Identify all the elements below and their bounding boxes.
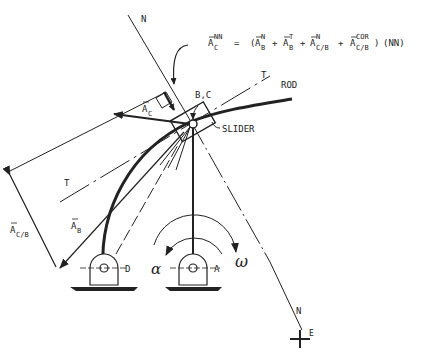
equation-leader: [174, 45, 188, 84]
label-pivot-d: D: [125, 264, 130, 274]
svg-text:C: C: [214, 44, 218, 52]
svg-text:B: B: [261, 44, 265, 52]
omega-arc: [154, 215, 236, 252]
vector-acb-line: [10, 175, 56, 267]
label-omega: ω: [235, 252, 248, 271]
label-slider: SLIDER: [222, 124, 255, 134]
svg-text:+: +: [338, 38, 344, 48]
label-acb: A C/B: [10, 223, 29, 239]
svg-text:N: N: [261, 33, 265, 41]
svg-text:COR: COR: [356, 33, 369, 41]
svg-text:+: +: [272, 38, 278, 48]
svg-text:N: N: [316, 33, 320, 41]
label-e: E: [309, 329, 314, 338]
label-ab: A B: [71, 219, 81, 235]
vector-acnn-arrow: [164, 92, 174, 110]
label-alpha: α: [151, 260, 161, 278]
svg-text:B: B: [77, 227, 81, 235]
label-ac: A C: [142, 102, 152, 118]
svg-text:): ): [374, 38, 379, 48]
svg-text:B: B: [289, 44, 293, 52]
label-n-bottom: N: [296, 306, 301, 316]
svg-text:=: =: [234, 38, 240, 48]
svg-text:C/B: C/B: [356, 44, 369, 52]
svg-text:C: C: [148, 110, 152, 118]
label-pivot-a: A: [214, 264, 220, 274]
kinematics-diagram: N N E T T ROD SLIDER B,C D A α ω A C A B…: [0, 0, 426, 356]
label-t-lower: T: [64, 178, 70, 188]
svg-text:C/B: C/B: [16, 231, 29, 239]
label-bc: B,C: [195, 90, 211, 100]
link-db-line: [108, 145, 178, 268]
e-point-marker: [290, 330, 310, 348]
label-t-upper: T: [261, 70, 267, 80]
label-rod: ROD: [281, 80, 297, 90]
normal-axis-nn: [128, 15, 302, 330]
svg-text:T: T: [289, 33, 294, 41]
label-n-top: N: [141, 14, 146, 24]
svg-text:(NN): (NN): [383, 38, 405, 48]
acceleration-equation: A NN C = ( A N B + A T B + A N C/B + A C…: [208, 33, 405, 52]
pin-bc: [189, 120, 197, 128]
svg-text:NN: NN: [214, 33, 222, 41]
svg-text:+: +: [300, 38, 306, 48]
svg-text:C/B: C/B: [316, 44, 329, 52]
vector-ab: [60, 132, 184, 268]
